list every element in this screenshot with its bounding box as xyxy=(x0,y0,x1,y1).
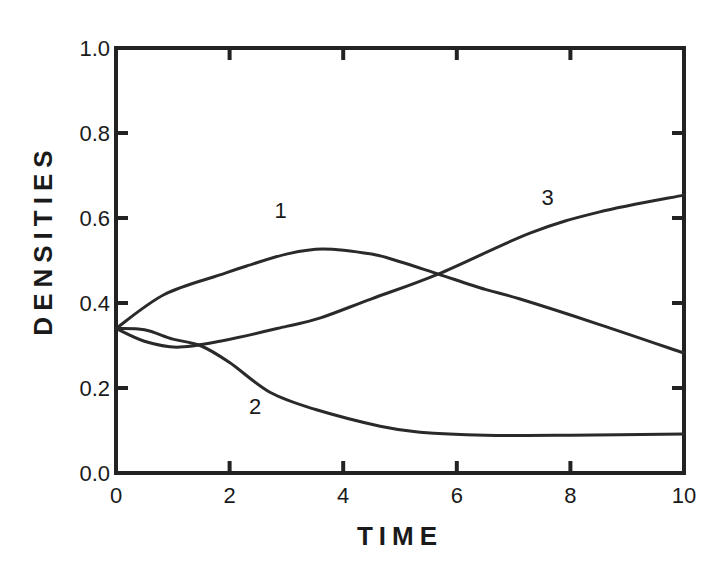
data-curves xyxy=(116,195,684,435)
axis-tick-labels: 02468100.00.20.40.60.81.0 xyxy=(79,36,696,508)
curve-label-2: 2 xyxy=(249,394,261,419)
y-tick-label: 0.2 xyxy=(79,376,110,401)
y-tick-label: 0.0 xyxy=(79,461,110,486)
curve-label-1: 1 xyxy=(275,198,287,223)
y-tick-label: 1.0 xyxy=(79,36,110,61)
densities-time-chart: 02468100.00.20.40.60.81.0 123 TIME DENSI… xyxy=(0,0,727,572)
y-axis-title: DENSITIES xyxy=(28,144,58,335)
y-tick-label: 0.6 xyxy=(79,206,110,231)
x-axis-title: TIME xyxy=(357,521,443,551)
y-tick-label: 0.4 xyxy=(79,291,110,316)
x-tick-label: 4 xyxy=(337,483,349,508)
curve-label-3: 3 xyxy=(542,185,554,210)
x-tick-label: 10 xyxy=(672,483,696,508)
x-tick-label: 0 xyxy=(110,483,122,508)
x-tick-label: 8 xyxy=(564,483,576,508)
curve-1 xyxy=(116,249,684,353)
curve-labels: 123 xyxy=(249,185,554,418)
y-tick-label: 0.8 xyxy=(79,121,110,146)
x-tick-label: 6 xyxy=(451,483,463,508)
x-tick-label: 2 xyxy=(223,483,235,508)
